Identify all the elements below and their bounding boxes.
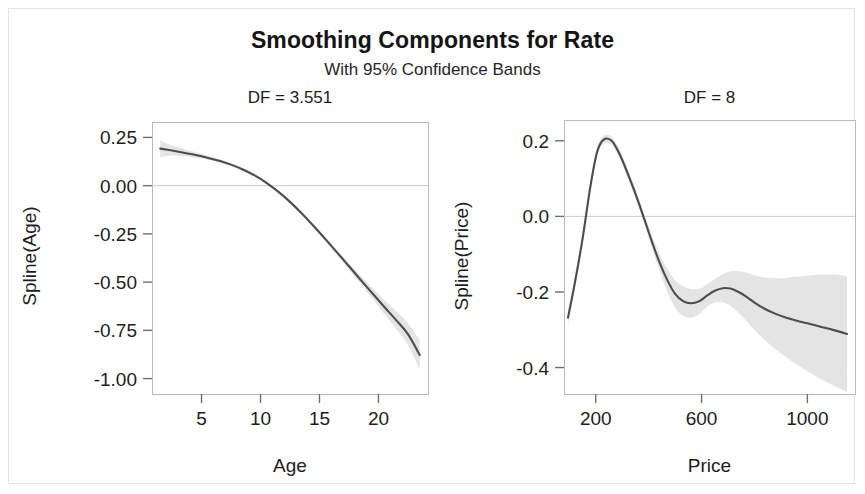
y-axis-label-left: Spline(Age)	[19, 166, 41, 346]
y-tick-label-left-5: -1.00	[94, 369, 137, 390]
x-tick-label-left-2: 15	[309, 408, 330, 429]
x-tick-label-left-0: 5	[196, 408, 207, 429]
x-tick-label-right-2: 1000	[786, 408, 828, 429]
y-tick-label-left-1: 0.00	[100, 176, 137, 197]
x-tick-label-left-3: 20	[368, 408, 389, 429]
x-axis-label-right: Price	[564, 455, 855, 477]
y-axis-label-right: Spline(Price)	[451, 166, 473, 346]
panel-right: 20060010000.20.0-0.2-0.4	[516, 121, 855, 430]
plot-frame-left	[153, 123, 429, 395]
y-tick-label-left-0: 0.25	[100, 127, 137, 148]
y-tick-label-left-4: -0.75	[94, 320, 137, 341]
x-tick-label-left-1: 10	[250, 408, 271, 429]
panel-left: 51015200.250.00-0.25-0.50-0.75-1.00	[94, 123, 429, 430]
x-tick-label-right-1: 600	[686, 408, 718, 429]
y-tick-label-right-3: -0.4	[516, 358, 549, 379]
y-tick-label-left-2: -0.25	[94, 224, 137, 245]
plot-area: 51015200.250.00-0.25-0.50-0.75-1.0020060…	[0, 0, 865, 494]
x-tick-label-right-0: 200	[580, 408, 612, 429]
x-axis-label-left: Age	[152, 455, 428, 477]
y-tick-label-right-1: 0.0	[523, 206, 549, 227]
chart-figure: Smoothing Components for Rate With 95% C…	[0, 0, 865, 494]
y-tick-label-left-3: -0.50	[94, 272, 137, 293]
y-tick-label-right-0: 0.2	[523, 131, 549, 152]
y-tick-label-right-2: -0.2	[516, 282, 549, 303]
